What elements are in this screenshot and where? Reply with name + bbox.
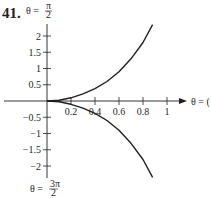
svg-text:θ =: θ = bbox=[26, 5, 39, 16]
y-tick-label: 2 bbox=[36, 31, 41, 42]
svg-text:2: 2 bbox=[51, 187, 56, 198]
y-tick-label: 1.5 bbox=[29, 47, 42, 58]
axis-arrow-icon bbox=[179, 98, 187, 104]
y-tick-label: −0.5 bbox=[23, 112, 41, 123]
y-tick-label: −1.5 bbox=[23, 144, 41, 155]
x-tick-label: 1 bbox=[165, 106, 170, 117]
svg-text:2: 2 bbox=[46, 9, 51, 20]
x-tick-label: 0.6 bbox=[113, 106, 126, 117]
y-tick-label: 1 bbox=[36, 63, 41, 74]
x-tick-label: 0.8 bbox=[137, 106, 150, 117]
y-tick-label: 0.5 bbox=[29, 79, 42, 90]
right-axis-label: θ = ( bbox=[191, 96, 210, 108]
top-axis-label: θ = π 2 bbox=[26, 0, 52, 20]
curve-upper-branch bbox=[47, 25, 153, 101]
polar-plot: 0.20.40.60.81 21.510.5−0.5−1−1.5−2 θ = π… bbox=[0, 0, 211, 198]
y-tick-label: −1 bbox=[30, 128, 41, 139]
y-tick-label: −2 bbox=[30, 161, 41, 172]
svg-text:θ =: θ = bbox=[30, 183, 43, 194]
x-tick-label: 0.2 bbox=[65, 106, 78, 117]
bottom-axis-label: θ = 3π 2 bbox=[30, 178, 60, 198]
